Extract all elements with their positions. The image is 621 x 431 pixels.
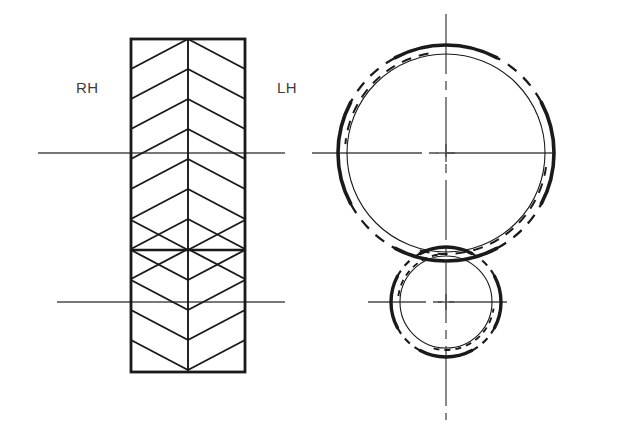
gear-drawing-svg: RH LH bbox=[0, 0, 621, 431]
hatch-line-left-l2 bbox=[131, 280, 188, 310]
end-view bbox=[312, 14, 584, 420]
end-view-centerlines bbox=[312, 14, 584, 420]
front-view-centerlines bbox=[38, 153, 285, 302]
hatch-line-left-u2 bbox=[131, 99, 188, 129]
hatch-line-right-u5 bbox=[188, 189, 245, 219]
small-gear-hidden-dashed-arc-2 bbox=[397, 328, 420, 351]
technical-drawing-canvas: RH LH bbox=[0, 0, 621, 431]
large-gear-hidden-dashed-arc-0 bbox=[497, 58, 542, 103]
right-hand-helix-label: RH bbox=[76, 79, 99, 96]
hatch-line-right-u4 bbox=[188, 159, 245, 189]
hatch-line-left-u4 bbox=[131, 159, 188, 189]
hatch-line-right-l4 bbox=[188, 340, 245, 370]
hatch-line-right-l3 bbox=[188, 310, 245, 340]
hatch-line-left-u5 bbox=[131, 189, 188, 219]
large-gear-hidden-dashed-arc-3 bbox=[497, 204, 542, 249]
hatch-line-right-u3 bbox=[188, 129, 245, 159]
large-gear-offset-dashed-0 bbox=[345, 54, 428, 145]
small-gear-offset-dashed-1 bbox=[434, 309, 494, 350]
hatch-line-left-l4 bbox=[131, 340, 188, 370]
large-gear-hidden-dashed-arc-2 bbox=[351, 204, 396, 249]
hatch-line-left-l3 bbox=[131, 310, 188, 340]
left-hand-helix-label: LH bbox=[277, 79, 297, 96]
hatch-line-right-u2 bbox=[188, 99, 245, 129]
hatch-line-left-u3 bbox=[131, 129, 188, 159]
hatch-line-right-u0 bbox=[188, 39, 245, 69]
hatch-line-left-u1 bbox=[131, 69, 188, 99]
hatch-line-right-u1 bbox=[188, 69, 245, 99]
large-gear-hidden-dashed-arc-1 bbox=[351, 58, 396, 103]
hatch-line-right-l2 bbox=[188, 280, 245, 310]
hatch-line-left-u0 bbox=[131, 39, 188, 69]
